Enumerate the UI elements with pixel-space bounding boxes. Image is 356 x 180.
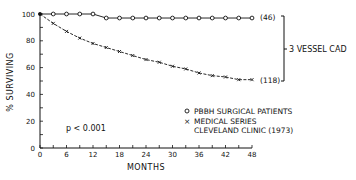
circle-marker-icon — [104, 16, 108, 20]
circle-marker-icon — [224, 16, 228, 20]
circle-marker-icon — [157, 16, 161, 20]
y-tick-label: 40 — [26, 91, 35, 99]
x-tick-label: 24 — [142, 151, 151, 159]
x-tick-label: 6 — [64, 151, 69, 159]
circle-marker-icon — [250, 16, 254, 20]
p-value-annotation: p < 0.001 — [66, 124, 106, 133]
bracket-label: 3 VESSEL CAD — [289, 45, 347, 54]
survival-chart: 0612182430364248020406080100 MONTHS % SU… — [0, 0, 356, 180]
x-tick-label: 18 — [115, 151, 124, 159]
circle-marker-icon — [144, 16, 148, 20]
x-tick-label: 0 — [38, 151, 42, 159]
legend-item-medical-line2: CLEVELAND CLINIC (1973) — [194, 126, 293, 135]
circle-marker-icon — [118, 16, 122, 20]
end-label-surgical: (46) — [260, 13, 275, 22]
legend-x-icon: × — [184, 117, 190, 126]
end-label-medical: (118) — [260, 76, 280, 85]
legend-circle-icon — [185, 109, 189, 113]
circle-marker-icon — [51, 12, 55, 16]
x-tick-label: 42 — [221, 151, 230, 159]
legend-item-medical: MEDICAL SERIES — [194, 117, 257, 126]
y-tick-label: 100 — [22, 11, 35, 19]
circle-marker-icon — [237, 16, 241, 20]
legend-item-surgical: PBBH SURGICAL PATIENTS — [194, 107, 293, 116]
bracket — [281, 16, 287, 81]
x-tick-label: 36 — [195, 151, 204, 159]
circle-marker-icon — [131, 16, 135, 20]
circle-marker-icon — [91, 12, 95, 16]
legend: PBBH SURGICAL PATIENTS × MEDICAL SERIES … — [184, 107, 293, 135]
circle-marker-icon — [78, 12, 82, 16]
x-marker-icon — [65, 30, 68, 33]
x-marker-icon — [251, 78, 254, 81]
y-tick-label: 0 — [31, 145, 35, 153]
y-axis-title: % SURVIVING — [6, 52, 15, 112]
circle-marker-icon — [65, 12, 69, 16]
circle-marker-icon — [210, 16, 214, 20]
circle-marker-icon — [171, 16, 175, 20]
axes: 0612182430364248020406080100 — [22, 11, 257, 160]
circle-marker-icon — [184, 16, 188, 20]
x-tick-label: 30 — [168, 151, 177, 159]
medical-series-line — [40, 14, 252, 80]
y-tick-label: 60 — [26, 64, 35, 72]
series-group — [38, 12, 254, 81]
y-tick-label: 20 — [26, 118, 35, 126]
x-marker-icon — [52, 22, 55, 25]
x-axis-title: MONTHS — [127, 163, 165, 172]
circle-marker-icon — [197, 16, 201, 20]
x-tick-label: 12 — [89, 151, 98, 159]
y-tick-label: 80 — [26, 37, 35, 45]
x-tick-label: 48 — [248, 151, 257, 159]
